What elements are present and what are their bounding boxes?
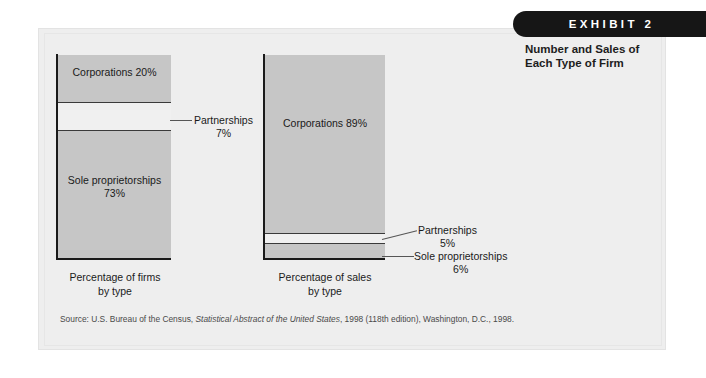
bar-firms-axis-bottom [56,258,171,260]
bar-firms-caption-line2: by type [50,284,180,298]
source-note: Source: U.S. Bureau of the Census, Stati… [60,313,580,325]
bar-percentage-of-firms: Corporations 20% Sole proprietorships 73… [58,55,171,258]
bar-sales-sole-label: Sole proprietorships [414,250,507,262]
bar-sales-sole-callout: Sole proprietorships 6% [414,250,507,276]
bar-sales-sole-percent: 6% [414,263,507,276]
bar-sales-corporations-label: Corporations [283,117,343,129]
bar-firms-sole-label-line1: Sole [68,174,89,186]
bar-sales-partnerships-label: Partnerships [418,224,477,236]
exhibit-title-line1: Number and Sales of [525,42,697,56]
bar-firms-sole-percent: 73% [104,187,125,199]
bar-sales-partnerships-percent: 5% [418,237,477,250]
exhibit-title-line2: Each Type of Firm [525,56,697,70]
bar-firms-corporations-label: Corporations [72,66,132,78]
bar-firms-caption: Percentage of firms by type [50,270,180,298]
bar-sales-caption-line2: by type [258,284,392,298]
bar-firms-corporations-percent: 20% [136,66,157,78]
exhibit-title: Number and Sales of Each Type of Firm [525,42,697,70]
bar-sales-axis-bottom [263,258,385,260]
bar-sales-sole-leader-line [382,256,414,257]
bar-firms-segment-sole-proprietorships: Sole proprietorships 73% [58,131,171,258]
bar-sales-segment-sole-proprietorships [265,244,385,258]
bar-sales-segment-corporations: Corporations 89% [265,55,385,234]
source-note-prefix: Source: U.S. Bureau of the Census, [60,314,195,324]
bar-firms-sole-label-line2: proprietorships [92,174,161,186]
bar-firms-caption-line1: Percentage of firms [50,270,180,284]
bar-firms-partnerships-leader-line [170,120,192,121]
exhibit-figure: EXHIBIT 2 Number and Sales of Each Type … [0,0,706,378]
bar-sales-partnerships-callout: Partnerships 5% [418,224,477,250]
bar-firms-segment-partnerships [58,103,171,131]
bar-sales-corporations-percent: 89% [346,117,367,129]
bar-percentage-of-sales: Corporations 89% [265,55,385,258]
bar-firms-partnerships-callout: Partnerships 7% [194,114,253,140]
bar-firms-partnerships-percent: 7% [194,127,253,140]
exhibit-badge: EXHIBIT 2 [513,11,706,37]
bar-firms-segment-corporations: Corporations 20% [58,55,171,103]
bar-sales-caption-line1: Percentage of sales [258,270,392,284]
source-note-suffix: , 1998 (118th edition), Washington, D.C.… [340,314,514,324]
exhibit-badge-label: EXHIBIT 2 [565,18,655,30]
bar-sales-segment-partnerships [265,234,385,244]
bar-sales-caption: Percentage of sales by type [258,270,392,298]
source-note-title: Statistical Abstract of the United State… [195,314,339,324]
bar-firms-partnerships-label: Partnerships [194,114,253,126]
